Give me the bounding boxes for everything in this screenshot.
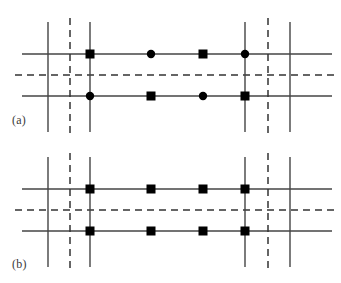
panel-b-node-square-0: [86, 185, 95, 194]
panel-a-node-circle-3: [241, 50, 249, 58]
panel-b-label: (b): [12, 258, 27, 270]
panel-a-node-square-5: [147, 92, 156, 101]
panel-a-node-square-7: [241, 92, 250, 101]
panel-a-node-square-2: [199, 50, 208, 59]
panel-a-node-circle-4: [86, 92, 94, 100]
panel-a-node-circle-1: [147, 50, 155, 58]
panel-b-node-square-1: [147, 185, 156, 194]
lattice-figure: (a)(b): [0, 0, 341, 283]
panel-b-node-square-5: [147, 227, 156, 236]
panel-a-node-square-0: [86, 50, 95, 59]
panel-a-label: (a): [12, 114, 26, 126]
figure-canvas: [0, 0, 341, 283]
panel-b-node-square-3: [241, 185, 250, 194]
panel-b-node-square-4: [86, 227, 95, 236]
panel-b-node-square-2: [199, 185, 208, 194]
panel-a-node-circle-6: [199, 92, 207, 100]
panel-b-node-square-6: [199, 227, 208, 236]
panel-b-node-square-7: [241, 227, 250, 236]
